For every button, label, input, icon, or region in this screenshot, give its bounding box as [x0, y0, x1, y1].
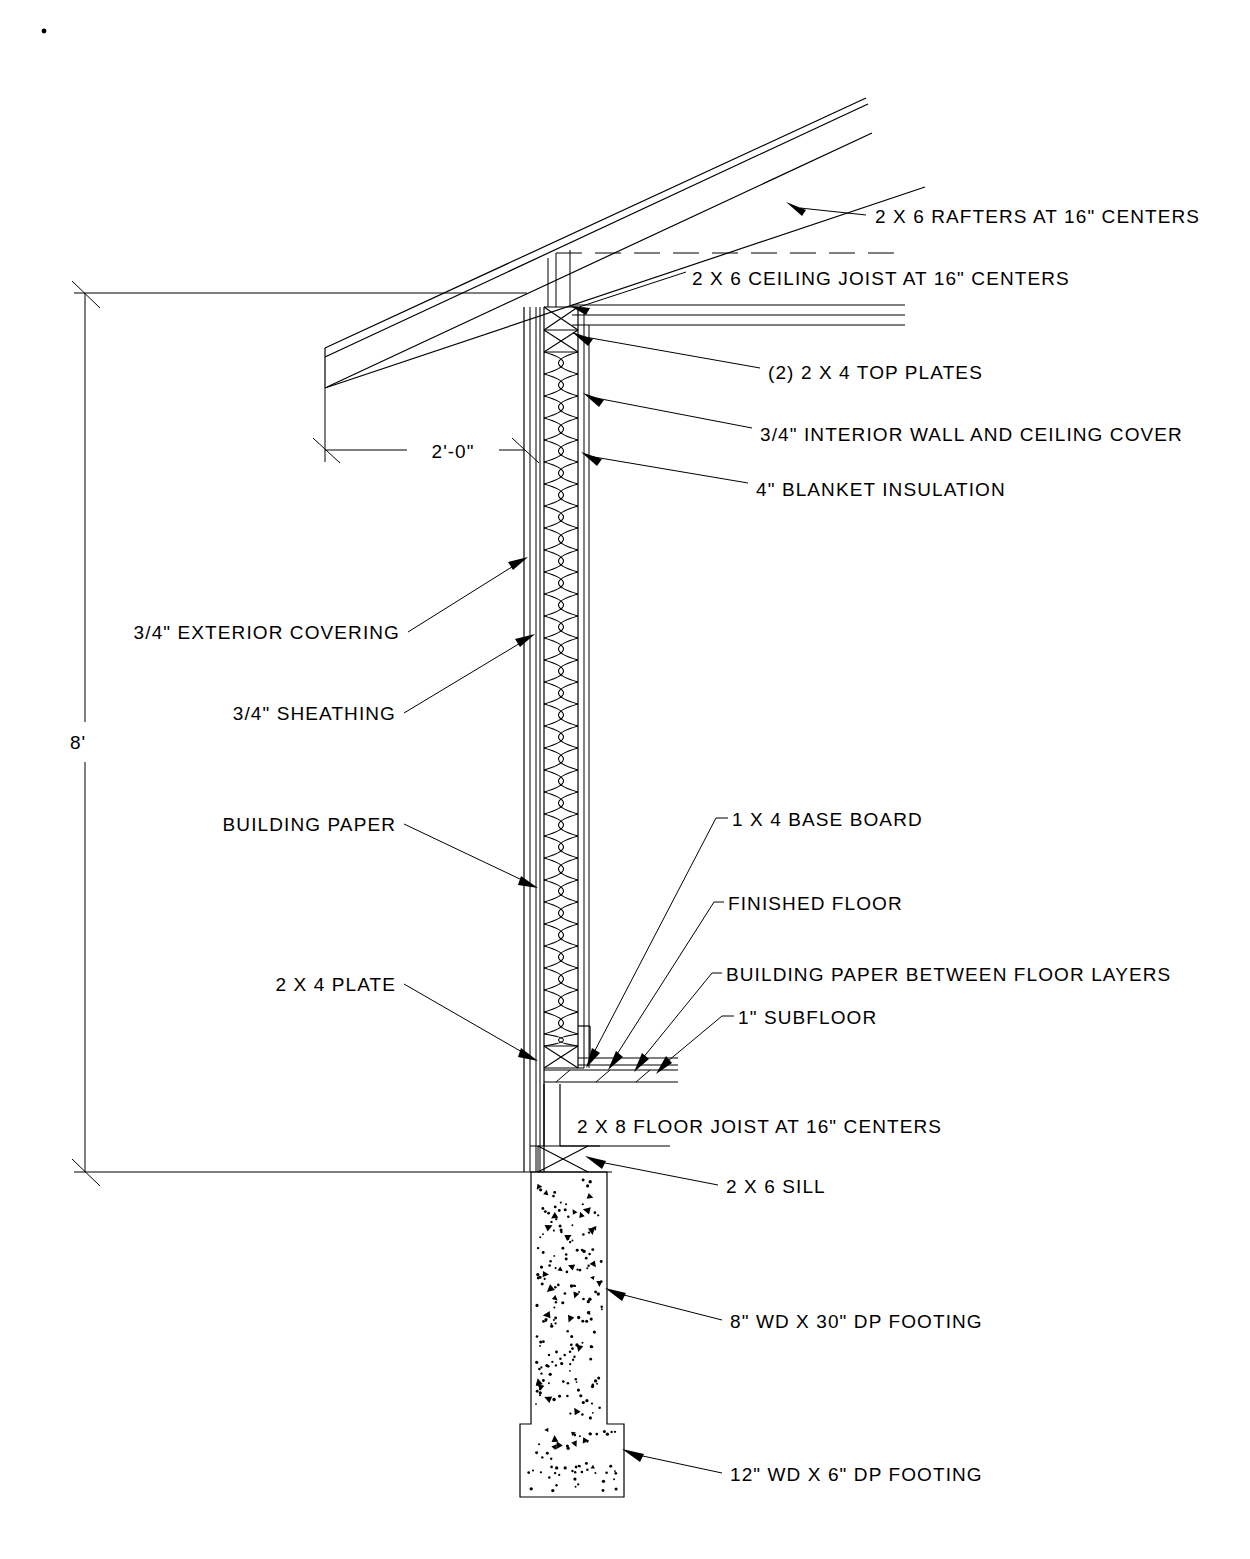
insulation-batt-loop	[544, 836, 564, 858]
concrete-dot	[550, 1323, 552, 1325]
concrete-dot	[609, 1465, 612, 1468]
concrete-dot	[590, 1433, 592, 1435]
concrete-dot	[535, 1361, 538, 1364]
concrete-aggregate-mark	[544, 1427, 550, 1433]
label-exterior-covering: 3/4" EXTERIOR COVERING	[134, 622, 400, 643]
leader-line-building-paper-floor	[638, 973, 712, 1064]
insulation-batt-loop	[559, 726, 579, 748]
insulation-batt-loop	[559, 550, 579, 572]
insulation-batt-loop	[544, 638, 564, 660]
concrete-dot	[532, 1469, 534, 1471]
insulation-batt-loop	[559, 572, 579, 594]
concrete-aggregate-mark	[578, 1212, 586, 1220]
concrete-dot	[570, 1335, 573, 1338]
insulation-batt-loop	[544, 1012, 564, 1034]
arrowhead-interior-cover	[583, 393, 604, 407]
label-subfloor: 1" SUBFLOOR	[738, 1007, 877, 1028]
foundation-assembly	[520, 1172, 624, 1497]
leader-line-rafters	[800, 208, 866, 215]
foundation-outline	[520, 1172, 624, 1497]
leader-line-footing	[638, 1455, 722, 1473]
label-floor-joist: 2 X 8 FLOOR JOIST AT 16" CENTERS	[577, 1116, 942, 1137]
concrete-dot	[553, 1230, 555, 1232]
concrete-dot	[582, 1342, 584, 1344]
leader-line-exterior-covering	[408, 565, 515, 632]
concrete-dot	[546, 1452, 549, 1455]
concrete-dot	[595, 1433, 598, 1436]
leader-footing	[622, 1449, 722, 1473]
concrete-dot	[536, 1335, 539, 1338]
concrete-dot	[566, 1271, 569, 1274]
roof-sheathing-top-line	[325, 104, 868, 357]
concrete-dot	[561, 1301, 564, 1304]
concrete-dot	[540, 1366, 542, 1368]
concrete-aggregate-mark	[557, 1266, 563, 1272]
arrowhead-sheathing	[515, 634, 535, 647]
insulation-batt-loop	[544, 770, 564, 792]
concrete-aggregate-mark	[595, 1278, 604, 1287]
concrete-aggregate-mark	[580, 1436, 589, 1445]
insulation-batt-loop	[559, 440, 579, 462]
concrete-aggregate-mark	[591, 1464, 596, 1469]
insulation-batt-loop	[544, 990, 564, 1012]
subfloor-tick-1	[556, 1070, 570, 1082]
label-footing: 12" WD X 6" DP FOOTING	[730, 1464, 983, 1485]
concrete-dot	[550, 1466, 553, 1469]
concrete-dot	[586, 1184, 589, 1187]
concrete-dot	[581, 1249, 584, 1252]
concrete-aggregate-mark	[547, 1284, 555, 1292]
concrete-dot	[578, 1291, 580, 1293]
concrete-dot	[544, 1210, 547, 1213]
concrete-dot	[594, 1211, 597, 1214]
concrete-dot	[550, 1325, 553, 1328]
concrete-aggregate-mark	[563, 1233, 572, 1242]
insulation-batt-loop	[544, 814, 564, 836]
concrete-dot	[544, 1318, 547, 1321]
arrowhead-finished-floor	[608, 1051, 623, 1070]
insulation-batt-loop	[544, 968, 564, 990]
concrete-dot	[594, 1472, 596, 1474]
concrete-dot	[564, 1208, 567, 1211]
insulation-batt-loop	[559, 528, 579, 550]
arrowhead-bottom-plate	[518, 1048, 538, 1061]
concrete-dot	[561, 1247, 564, 1250]
concrete-dot	[536, 1273, 539, 1276]
concrete-dot	[614, 1472, 617, 1475]
concrete-dot	[535, 1451, 538, 1454]
eave-overhang-dimension-text: 2'-0"	[432, 441, 475, 462]
label-foundation-wall: 8" WD X 30" DP FOOTING	[730, 1311, 983, 1332]
insulation-batt-loop	[559, 748, 579, 770]
wall-section-drawing-sheet: 8' 2'-0" 2 X 6 RAFTERS AT 16" CENTERS 2 …	[0, 0, 1250, 1559]
concrete-dot	[572, 1359, 574, 1361]
insulation-batt-loop	[544, 374, 564, 396]
concrete-aggregate-mark	[571, 1290, 580, 1299]
concrete-dot	[593, 1331, 596, 1334]
insulation-batt-loop	[559, 594, 579, 616]
concrete-dot	[582, 1203, 584, 1205]
insulation-batt-loop	[559, 616, 579, 638]
insulation-batt-loop	[559, 396, 579, 418]
concrete-dot	[573, 1356, 575, 1358]
concrete-dot	[553, 1191, 556, 1194]
concrete-dot	[554, 1286, 557, 1289]
concrete-dot	[558, 1474, 560, 1476]
label-bottom-plate: 2 X 4 PLATE	[275, 974, 396, 995]
insulation-batt-loop	[559, 352, 579, 374]
concrete-dot	[553, 1255, 555, 1257]
leader-building-paper	[404, 824, 538, 888]
concrete-dot	[567, 1447, 570, 1450]
concrete-dot	[562, 1380, 565, 1383]
top-plates-assembly	[544, 307, 578, 352]
concrete-dot	[542, 1379, 545, 1382]
concrete-dot	[585, 1320, 588, 1323]
arrowhead-footing	[622, 1449, 644, 1462]
concrete-dot	[576, 1249, 579, 1252]
concrete-dot	[558, 1209, 561, 1212]
concrete-dot	[538, 1368, 541, 1371]
concrete-dot	[541, 1283, 544, 1286]
concrete-dot	[577, 1389, 580, 1392]
label-building-paper-floor: BUILDING PAPER BETWEEN FLOOR LAYERS	[726, 964, 1171, 985]
sill-plate-assembly	[524, 1146, 612, 1172]
concrete-dot	[551, 1489, 554, 1492]
insulation-batt-loop	[544, 1034, 564, 1046]
